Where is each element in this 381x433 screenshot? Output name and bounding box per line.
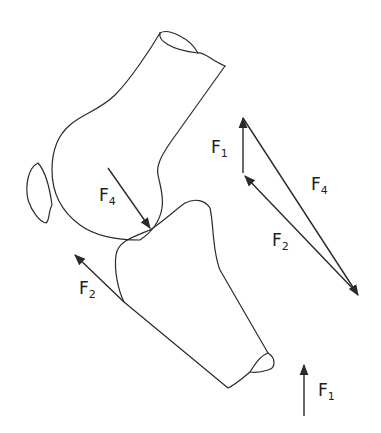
f2-triangle-arrow <box>245 176 356 292</box>
label-f2-triangle: F2 <box>272 232 289 252</box>
knee-diagram <box>0 0 381 433</box>
patella-outline <box>27 163 52 223</box>
force-triangle <box>243 118 358 295</box>
label-f1-bottom: F1 <box>318 382 335 402</box>
f4-triangle-arrow <box>243 118 358 295</box>
femur-outline <box>52 32 225 240</box>
label-f4-joint: F4 <box>99 187 116 207</box>
label-f2-tibia: F2 <box>79 280 96 300</box>
label-f4-triangle: F4 <box>311 176 328 196</box>
tibia-outline <box>115 200 274 388</box>
label-f1-triangle: F1 <box>211 139 228 159</box>
